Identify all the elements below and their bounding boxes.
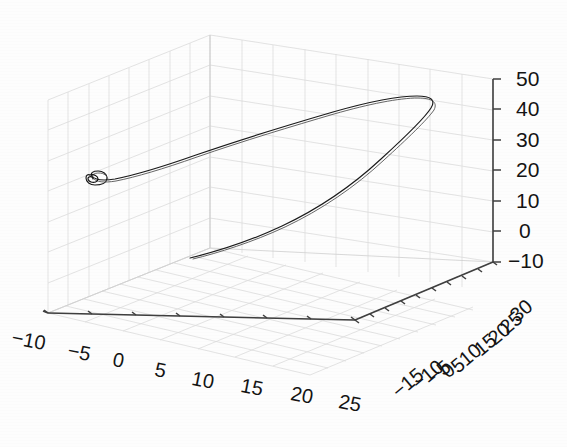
- figure-3d-line-plot: 50 40 30 20 10 0 −10 −10 −5 0 5 10 15 20…: [0, 0, 567, 447]
- z-tick-label: 20: [516, 159, 539, 180]
- z-tick-label: 50: [516, 68, 539, 89]
- plot-canvas: [0, 0, 567, 447]
- z-tick-label: 40: [516, 98, 539, 119]
- x-tick-label: 20: [289, 383, 315, 407]
- x-axis-spine: [43, 310, 355, 320]
- z-axis-spine: [493, 79, 501, 262]
- wall-right-grid: [210, 35, 493, 287]
- floor-outline: [48, 248, 493, 320]
- floor-grid: [48, 248, 473, 375]
- x-tick-label: 15: [239, 375, 265, 399]
- wall-left-grid: [48, 35, 210, 313]
- z-tick-label: 30: [516, 129, 539, 150]
- x-tick-label: −5: [66, 340, 92, 364]
- z-tick-label: 10: [516, 190, 539, 211]
- y-axis-spine: [355, 262, 497, 323]
- z-tick-label: 0: [519, 220, 531, 241]
- z-tick-label: −10: [508, 250, 544, 271]
- trajectory-curve: [86, 96, 435, 259]
- x-tick-label: 10: [190, 368, 216, 392]
- x-tick-label: 25: [337, 391, 363, 415]
